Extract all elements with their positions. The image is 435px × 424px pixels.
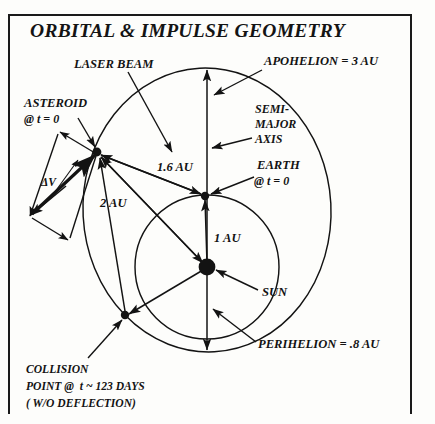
semi-major-axis-label-line3: AXIS xyxy=(255,132,282,146)
asteroid-label-leader xyxy=(78,118,95,147)
figure-canvas: ORBITAL & IMPULSE GEOMETRY xyxy=(0,0,435,424)
delta-v-label: ΔV xyxy=(41,176,56,190)
collision-label-line3: ( W/O DEFLECTION) xyxy=(26,397,136,411)
distance-asteroid-sun-label: 2 AU xyxy=(100,196,126,211)
laser-beam-leader xyxy=(128,72,172,152)
laser-beam-label: LASER BEAM xyxy=(74,57,153,72)
semi-major-axis-leader xyxy=(212,138,252,148)
sun-label-leader xyxy=(216,270,258,290)
collision-label-line2: POINT @ t ~ 123 DAYS xyxy=(26,380,145,394)
delta-v-side-upper xyxy=(60,132,95,153)
semi-major-axis-label-line1: SEMI- xyxy=(255,102,289,116)
semi-major-axis-label-line2: MAJOR xyxy=(255,117,296,131)
asteroid-epoch-label: @ t = 0 xyxy=(24,112,59,126)
delta-v-side-lower xyxy=(32,218,68,240)
delta-v-resultant-tail-arrow xyxy=(31,186,66,215)
earth-label: EARTH xyxy=(257,158,300,173)
apohelion-label: APOHELION = 3 AU xyxy=(264,54,378,69)
sun-marker xyxy=(199,259,216,276)
distance-asteroid-earth-label: 1.6 AU xyxy=(157,160,193,175)
collision-point-marker xyxy=(121,311,129,319)
asteroid-marker xyxy=(93,148,102,157)
distance-sun-earth-label: 1 AU xyxy=(214,231,240,246)
collision-label-line1: COLLISION xyxy=(26,363,89,377)
sun-label: SUN xyxy=(262,285,287,300)
earth-epoch-label: @ t = 0 xyxy=(254,174,289,188)
collision-label-leader xyxy=(88,320,122,358)
earth-label-leader xyxy=(211,177,254,194)
earth-marker xyxy=(201,192,209,200)
perihelion-label: PERIHELION = .8 AU xyxy=(258,337,379,352)
asteroid-label: ASTEROID xyxy=(24,96,87,111)
